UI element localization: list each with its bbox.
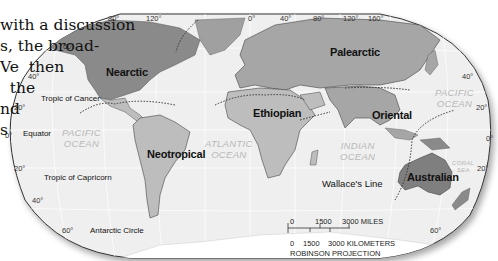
lat-label: 20°	[476, 103, 487, 112]
scale-km-3000: 3000 KILOMETERS	[328, 239, 395, 248]
label-tropic-of-capricorn: Tropic of Capricorn	[44, 173, 112, 182]
lon-label: 120°	[343, 14, 359, 23]
book-line: nd	[0, 99, 135, 120]
book-line: with a discussion	[0, 15, 135, 36]
ocean-label-atlantic: ATLANTICOCEAN	[205, 138, 253, 160]
realm-label-ethiopian: Ethiopian	[253, 107, 301, 119]
lat-label: 40°	[462, 72, 473, 81]
realm-label-oriental: Oriental	[372, 109, 412, 121]
book-line: the	[0, 78, 135, 99]
lon-label: 80°	[313, 14, 324, 23]
book-line: Ve then	[0, 57, 135, 78]
lon-label: 40°	[280, 14, 291, 23]
lat-label: 60°	[62, 226, 73, 235]
lat-label: 0°	[486, 134, 493, 143]
scale-miles-1500: 1500	[315, 217, 332, 226]
projection-label: ROBINSON PROJECTION	[290, 249, 380, 258]
lat-label: 20°	[477, 164, 488, 173]
lat-label: 20°	[14, 164, 25, 173]
ocean-label-indian: INDIANOCEAN	[340, 140, 375, 162]
ocean-label-pacific-east: PACIFICOCEAN	[435, 87, 474, 109]
lon-label: 0°	[248, 14, 255, 23]
realm-label-neotropical: Neotropical	[147, 148, 205, 160]
realm-label-palearctic: Palearctic	[330, 46, 380, 58]
scale-miles-0: 0	[290, 217, 294, 226]
ocean-label-coral-sea: CORALSEA	[452, 160, 474, 174]
lon-label: 120°	[146, 14, 162, 23]
lon-label: 160°	[368, 14, 384, 23]
lat-label: 60°	[430, 226, 441, 235]
book-text: with a discussions, the broad-Ve then th…	[0, 0, 135, 162]
label-wallaces-line: Wallace's Line	[322, 178, 383, 189]
scale-km-1500: 1500	[303, 239, 320, 248]
label-antarctic-circle: Antarctic Circle	[90, 226, 144, 235]
lat-label: 40°	[32, 196, 43, 205]
book-line: s	[0, 120, 135, 141]
scale-miles-3000: 3000 MILES	[342, 217, 383, 226]
book-line: s, the broad-	[0, 36, 135, 57]
scale-km-0: 0	[290, 239, 294, 248]
